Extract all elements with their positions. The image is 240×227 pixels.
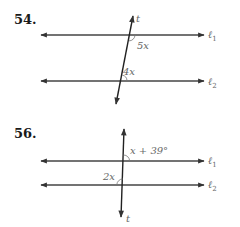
transversal-t <box>116 16 133 104</box>
angle-arc-x-plus-39 <box>124 155 130 161</box>
l1-label: ℓ1 <box>208 29 217 43</box>
transversal-label: t <box>136 13 141 24</box>
angle-2x-label: 2x <box>102 171 115 182</box>
transversal-t <box>121 129 124 217</box>
transversal-label: t <box>126 213 131 224</box>
figure-56: t ℓ1 ℓ2 x + 39° 2x <box>41 129 217 224</box>
l1-label: ℓ1 <box>208 155 217 169</box>
l2-label: ℓ2 <box>208 179 217 193</box>
parallel-lines-figures: t ℓ1 ℓ2 5x 4x t ℓ1 ℓ2 x + 39° 2x <box>0 0 240 227</box>
angle-4x-label: 4x <box>122 66 135 77</box>
angle-5x-label: 5x <box>137 40 149 51</box>
figure-54: t ℓ1 ℓ2 5x 4x <box>41 13 217 104</box>
l2-label: ℓ2 <box>208 76 217 90</box>
angle-x-plus-39-label: x + 39° <box>130 145 168 156</box>
